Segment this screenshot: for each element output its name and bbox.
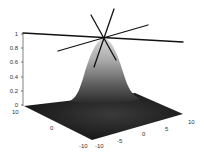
z-tick-label: 0 [15, 102, 19, 108]
surface-plot: 1 0.8 0.6 0.4 0.2 0 10 0 -10 -10 -5 0 5 … [0, 0, 204, 152]
x-tick-label: 5 [165, 126, 169, 132]
x-tick-label: 10 [188, 119, 195, 125]
x-tick-label: 0 [142, 131, 146, 137]
y-tick-label: 0 [50, 125, 54, 131]
x-tick-label: -10 [95, 143, 104, 149]
z-tick-label: 0.8 [10, 45, 19, 51]
y-tick-label: -10 [79, 143, 88, 149]
y-tick-label: 10 [12, 109, 19, 115]
z-tick-label: 1 [15, 31, 19, 37]
z-tick-label: 0.2 [10, 88, 19, 94]
z-tick-label: 0.6 [10, 59, 19, 65]
x-tick-label: -5 [117, 138, 123, 144]
gaussian-surface [70, 38, 140, 103]
z-tick-label: 0.4 [10, 74, 19, 80]
